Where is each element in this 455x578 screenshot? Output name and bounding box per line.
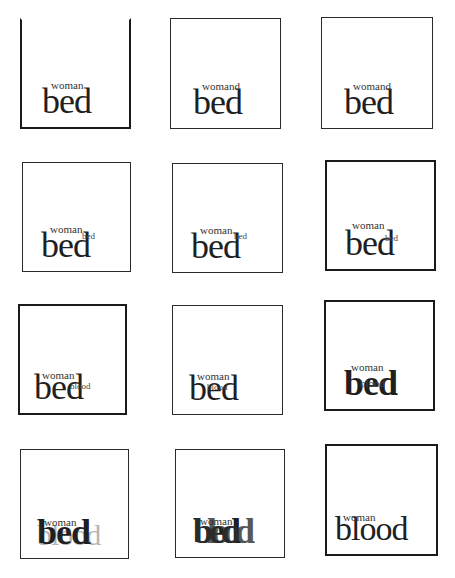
overlay-word: woman bbox=[352, 220, 384, 231]
residue-word: bed bbox=[234, 232, 247, 241]
panel-2: bed womand bbox=[170, 18, 281, 129]
panel-5: bed woman bed bbox=[172, 163, 283, 273]
panel-12: blood woman bbox=[325, 444, 438, 556]
panel-9: bed woman blood bbox=[324, 300, 435, 411]
overlay-word: woman bbox=[200, 225, 232, 236]
panel-3: bed womand bbox=[321, 17, 433, 129]
residue-word: blood bbox=[70, 382, 91, 391]
residue-word: blood bbox=[37, 520, 100, 550]
panel-4: bed woman bed bbox=[22, 162, 131, 272]
overlay-word: woman bbox=[197, 371, 229, 382]
overlay-word: womand bbox=[202, 81, 240, 92]
panel-7: bed woman blood bbox=[18, 304, 127, 415]
overlay-word: woman bbox=[343, 512, 375, 523]
overlay-word: woman bbox=[42, 370, 74, 381]
overlay-word: womand bbox=[353, 81, 391, 92]
residue-word: blood bbox=[360, 378, 385, 389]
panel-8: bed woman blood bbox=[172, 305, 283, 415]
residue-word: bed bbox=[385, 234, 398, 243]
residue-word: blood bbox=[193, 513, 249, 549]
panel-10: bed woman blood bbox=[20, 449, 129, 559]
panel-6: bed woman bed bbox=[325, 160, 436, 271]
overlay-word: woman bbox=[50, 224, 82, 235]
panel-1: bed woman bbox=[20, 18, 131, 129]
overlay-word: woman bbox=[51, 80, 83, 91]
residue-word: blood bbox=[207, 383, 228, 392]
overlay-word: woman bbox=[351, 362, 383, 373]
residue-word: bed bbox=[82, 232, 95, 241]
panel-11: bed woman blood bbox=[175, 449, 285, 558]
